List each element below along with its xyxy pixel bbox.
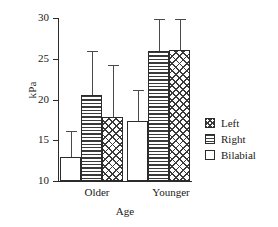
bar-chart-figure: kPa 30 25 20 15 10 Older Younger Age Lef… [0,0,278,227]
error-bar-line-younger-right [159,19,160,51]
y-tick-15: 15 [53,140,58,141]
error-bar-line-older-right [92,51,93,96]
y-tick-label-30: 30 [38,11,49,24]
legend-item-bilabial: Bilabial [205,147,256,163]
y-tick-label-15: 15 [38,133,49,146]
y-axis-spine [58,18,59,181]
legend-label-right: Right [221,133,245,146]
y-tick-label-10: 10 [38,174,49,187]
bar-younger-bilabial [127,121,148,181]
bar-older-bilabial [60,157,81,181]
legend-label-left: Left [221,117,239,130]
error-bar-line-younger-bilabial [138,90,139,121]
error-bar-line-older-left [113,65,114,116]
error-bar-cap-younger-right [154,19,165,20]
error-bar-cap-older-right [87,51,98,52]
error-bar-line-younger-left [180,19,181,50]
bar-older-right [81,95,102,181]
blank-swatch-icon [205,150,215,160]
y-tick-25: 25 [53,59,58,60]
legend-item-right: Right [205,131,256,147]
chart-legend: Left Right Bilabial [205,115,256,163]
bar-younger-left [169,50,190,181]
error-bar-cap-younger-bilabial [133,90,144,91]
crosshatch-swatch-icon [205,118,215,128]
error-bar-cap-younger-left [175,19,186,20]
bar-younger-right [148,51,169,181]
y-tick-10: 10 [53,181,58,182]
legend-item-left: Left [205,115,256,131]
error-bar-line-older-bilabial [71,131,72,157]
x-tick-label-older: Older [58,186,136,198]
bar-older-left [102,117,123,181]
plot-area: 30 25 20 15 10 [58,18,192,181]
error-bar-cap-older-bilabial [66,131,77,132]
horizontal-lines-swatch-icon [205,134,215,144]
y-tick-label-25: 25 [38,52,49,65]
error-bar-cap-older-left [108,65,119,66]
x-axis-spine [58,181,192,182]
x-tick-label-younger: Younger [132,186,210,198]
legend-label-bilabial: Bilabial [221,149,256,162]
y-tick-label-20: 20 [38,93,49,106]
y-axis-title: kPa [26,70,38,110]
x-axis-title: Age [58,205,192,217]
y-tick-30: 30 [53,18,58,19]
y-tick-20: 20 [53,100,58,101]
